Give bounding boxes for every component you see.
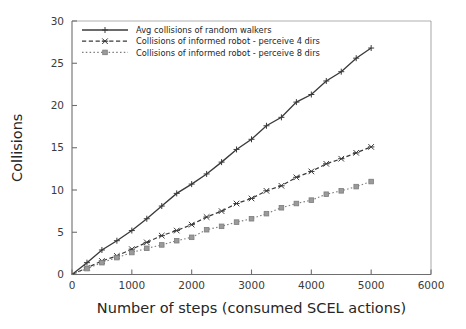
legend-label-0: Avg collisions of random walkers: [136, 25, 271, 35]
data-point-marker: [203, 214, 209, 220]
x-tick-label: 5000: [358, 279, 385, 291]
y-tick-label: 5: [57, 226, 64, 238]
data-point-marker: [130, 250, 135, 255]
data-point-marker: [102, 38, 108, 44]
data-point-marker: [294, 201, 299, 206]
data-point-marker: [144, 246, 149, 251]
series-2: [72, 179, 373, 274]
data-point-marker: [189, 235, 194, 240]
data-point-marker: [249, 216, 254, 221]
legend-label-2: Collisions of informed robot - perceive …: [136, 48, 320, 58]
x-axis: 0100020003000400050006000: [69, 270, 445, 291]
data-point-marker: [293, 175, 299, 181]
y-tick-label: 10: [51, 184, 64, 196]
data-point-marker: [264, 211, 269, 216]
data-point-marker: [115, 255, 120, 260]
data-point-marker: [219, 224, 224, 229]
data-point-marker: [102, 27, 108, 33]
axis-spines: [72, 21, 431, 275]
data-point-marker: [100, 260, 105, 265]
data-point-marker: [144, 240, 150, 246]
data-point-marker: [368, 144, 374, 150]
data-point-marker: [103, 50, 108, 55]
data-point-marker: [279, 205, 284, 210]
data-point-marker: [369, 179, 374, 184]
x-tick-label: 6000: [418, 279, 445, 291]
data-point-marker: [188, 222, 194, 228]
axes-frame: [72, 21, 431, 275]
data-point-marker: [248, 196, 254, 202]
data-point-marker: [174, 238, 179, 243]
data-point-marker: [159, 243, 164, 248]
series-0: [72, 45, 374, 274]
data-point-marker: [339, 189, 344, 194]
y-tick-label: 0: [57, 268, 64, 280]
legend: Avg collisions of random walkersCollisio…: [82, 25, 320, 57]
data-point-marker: [323, 161, 329, 167]
x-axis-title: Number of steps (consumed SCEL actions): [97, 300, 406, 316]
chart-figure: 0510152025300100020003000400050006000Num…: [0, 0, 466, 329]
data-point-marker: [278, 183, 284, 189]
y-tick-label: 20: [51, 99, 64, 111]
y-axis-title: Collisions: [9, 114, 25, 182]
data-point-marker: [85, 266, 90, 271]
x-tick-label: 4000: [298, 279, 325, 291]
x-tick-label: 1000: [118, 279, 145, 291]
data-point-marker: [159, 233, 165, 239]
data-point-marker: [354, 184, 359, 189]
y-tick-label: 30: [51, 15, 64, 27]
legend-label-1: Collisions of informed robot - perceive …: [136, 36, 320, 46]
y-tick-label: 15: [51, 141, 64, 153]
data-point-marker: [353, 150, 359, 156]
data-point-marker: [234, 220, 239, 225]
data-point-marker: [324, 192, 329, 197]
data-point-marker: [174, 228, 180, 234]
data-point-marker: [218, 208, 224, 214]
x-tick-label: 0: [69, 279, 76, 291]
data-point-marker: [233, 201, 239, 207]
data-point-marker: [308, 169, 314, 175]
x-tick-label: 3000: [238, 279, 265, 291]
y-tick-label: 25: [51, 57, 64, 69]
data-point-marker: [309, 198, 314, 203]
data-point-marker: [263, 188, 269, 194]
data-point-marker: [338, 156, 344, 162]
x-tick-label: 2000: [178, 279, 205, 291]
y-axis: 051015202530: [51, 15, 77, 281]
line-chart: 0510152025300100020003000400050006000Num…: [0, 0, 466, 329]
data-point-marker: [204, 227, 209, 232]
